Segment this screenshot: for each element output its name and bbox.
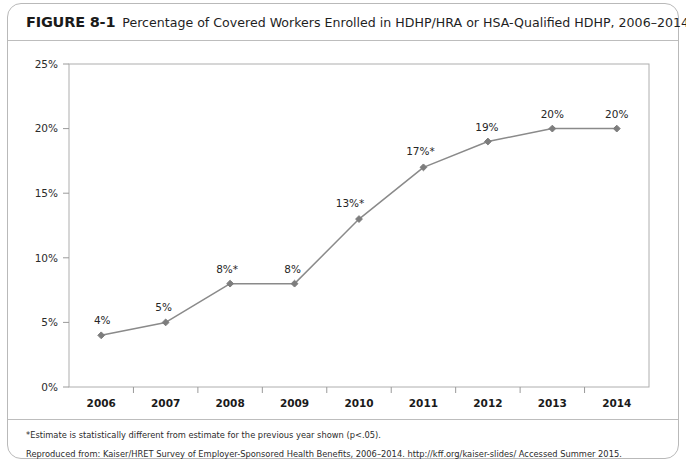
data-point-label: 8% [284, 263, 301, 275]
x-axis-tick-label: 2010 [344, 397, 373, 409]
data-point-label: 19% [475, 121, 498, 133]
figure-card: FIGURE 8-1 Percentage of Covered Workers… [7, 3, 679, 459]
y-axis-tick-label: 15% [35, 187, 58, 199]
y-axis-tick-label: 25% [35, 58, 58, 70]
figure-number-label: FIGURE 8-1 [26, 14, 115, 30]
data-point-label: 17%* [406, 145, 435, 157]
x-axis-tick-label: 2007 [151, 397, 180, 409]
data-point-label: 8%* [216, 263, 238, 275]
data-point-label: 5% [155, 301, 172, 313]
x-axis-tick-label: 2008 [215, 397, 244, 409]
x-axis-tick-label: 2009 [280, 397, 309, 409]
y-axis-tick-label: 0% [41, 381, 58, 393]
y-axis-tick-label: 5% [41, 316, 58, 328]
footnote-source: Reproduced from: Kaiser/HRET Survey of E… [26, 448, 660, 461]
data-point-label: 4% [94, 314, 111, 326]
page-title: Percentage of Covered Workers Enrolled i… [122, 15, 686, 30]
data-point-label: 13%* [336, 197, 365, 209]
chart-region: 0%5%10%15%20%25%200620072008200920102011… [8, 41, 678, 419]
footnote-significance: *Estimate is statistically different fro… [26, 429, 660, 442]
y-axis-tick-label: 10% [35, 252, 58, 264]
line-chart: 0%5%10%15%20%25%200620072008200920102011… [8, 41, 680, 419]
x-axis-tick-label: 2012 [473, 397, 502, 409]
data-point-label: 20% [541, 108, 564, 120]
y-axis-tick-label: 20% [35, 122, 58, 134]
x-axis-tick-label: 2013 [538, 397, 567, 409]
x-axis-tick-label: 2006 [87, 397, 116, 409]
x-axis-tick-label: 2014 [602, 397, 631, 409]
data-point-label: 20% [605, 108, 628, 120]
x-axis-tick-label: 2011 [409, 397, 438, 409]
figure-title-bar: FIGURE 8-1 Percentage of Covered Workers… [8, 4, 678, 41]
figure-footer: *Estimate is statistically different fro… [8, 419, 678, 458]
